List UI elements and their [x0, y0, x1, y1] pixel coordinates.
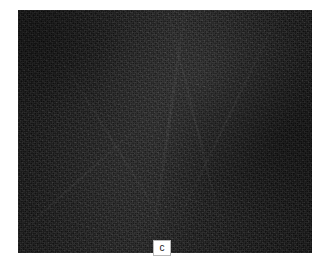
diagonal-streaks: [18, 10, 312, 253]
figure-panel: c: [0, 0, 312, 275]
noise-texture-secondary-icon: [18, 10, 312, 253]
panel-label-text: c: [160, 243, 165, 253]
dark-micrograph-image: [18, 10, 312, 253]
panel-label-box: c: [153, 240, 171, 256]
streak-5: [18, 106, 161, 253]
illumination-shading: [18, 10, 312, 253]
streak-1: [147, 10, 192, 253]
noise-texture-icon: [18, 10, 312, 253]
streak-4: [48, 38, 182, 251]
streak-3: [165, 10, 290, 246]
noise-texture-tertiary-icon: [18, 10, 312, 253]
streak-2: [158, 10, 233, 253]
